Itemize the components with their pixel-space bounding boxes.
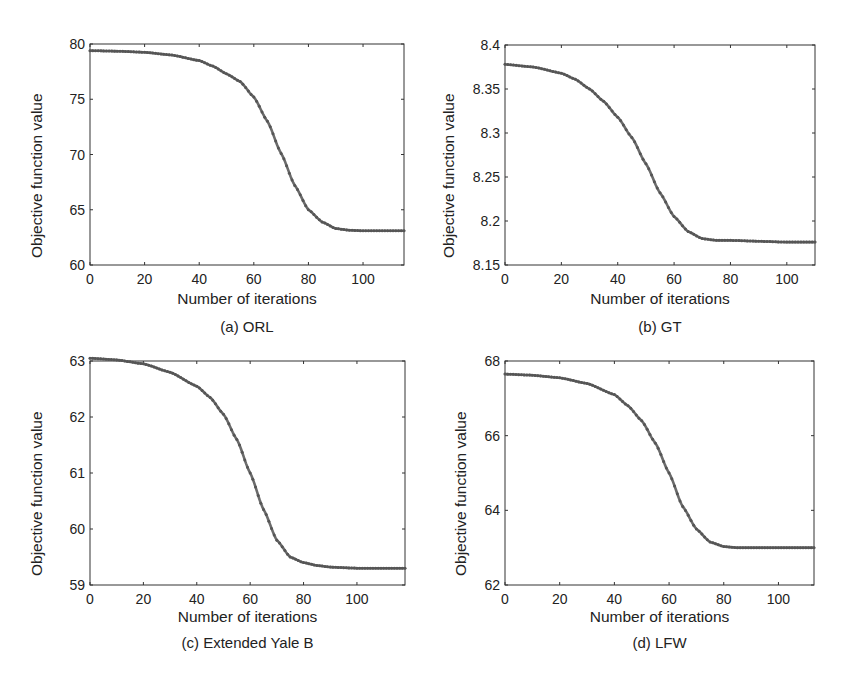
y-tick-label: 62 bbox=[484, 577, 500, 593]
x-tick-label: 60 bbox=[661, 591, 677, 607]
plot-lfw: 02040608010062646668 bbox=[0, 0, 845, 700]
x-tick-label: 100 bbox=[767, 591, 791, 607]
x-tick-label: 80 bbox=[716, 591, 732, 607]
panel-lfw: 02040608010062646668 Objective function … bbox=[0, 0, 845, 700]
data-series-line bbox=[504, 373, 816, 550]
x-tick-label: 40 bbox=[607, 591, 623, 607]
x-axis-label: Number of iterations bbox=[505, 608, 814, 626]
y-tick-label: 66 bbox=[484, 428, 500, 444]
y-tick-label: 68 bbox=[484, 353, 500, 369]
caption-lfw: (d) LFW bbox=[505, 634, 814, 651]
x-tick-label: 0 bbox=[501, 591, 509, 607]
y-axis-label: Objective function value bbox=[452, 411, 470, 576]
plot-frame bbox=[505, 361, 814, 585]
x-tick-label: 20 bbox=[552, 591, 568, 607]
y-tick-label: 64 bbox=[484, 502, 500, 518]
